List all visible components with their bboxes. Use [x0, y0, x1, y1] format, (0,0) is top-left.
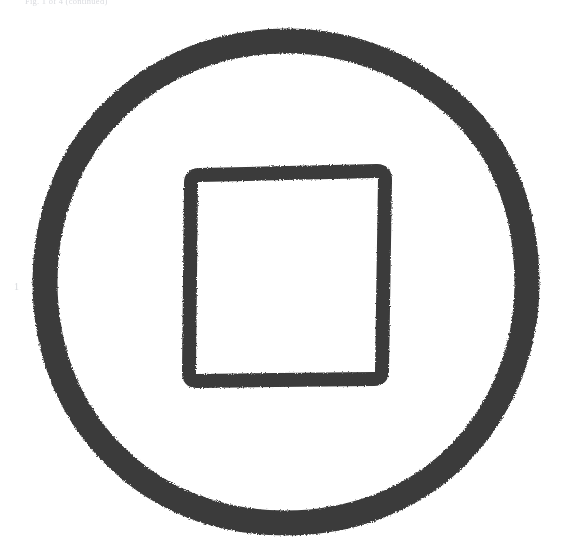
figure-square-in-circle — [0, 0, 568, 554]
scanned-page: Fig. 1 of 4 (continued) 1 — [0, 0, 568, 554]
inner-square — [189, 171, 385, 381]
figure-canvas — [0, 0, 568, 554]
outer-circle — [45, 41, 527, 523]
